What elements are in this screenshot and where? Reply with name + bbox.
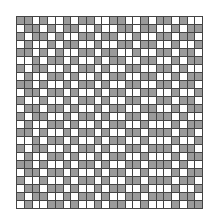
grid-cell <box>33 145 41 153</box>
grid-cell <box>25 161 33 169</box>
grid-cell <box>95 113 103 121</box>
grid-cell <box>79 129 87 137</box>
grid-cell <box>17 17 25 25</box>
grid-cell <box>64 177 72 185</box>
grid-cell <box>48 41 56 49</box>
grid-cell <box>17 33 25 41</box>
grid-cell <box>126 137 134 145</box>
grid-cell <box>17 57 25 65</box>
grid-cell <box>118 89 126 97</box>
grid-cell <box>79 97 87 105</box>
grid-cell <box>87 65 95 73</box>
grid-cell <box>102 89 110 97</box>
grid-cell <box>56 185 64 193</box>
grid-cell <box>71 89 79 97</box>
grid-cell <box>195 105 203 113</box>
grid-cell <box>71 169 79 177</box>
grid-cell <box>141 49 149 57</box>
grid-cell <box>110 137 118 145</box>
grid-cell <box>87 17 95 25</box>
grid-cell <box>40 49 48 57</box>
grid-cell <box>40 137 48 145</box>
grid-cell <box>87 177 95 185</box>
grid-cell <box>141 193 149 201</box>
grid-cell <box>188 129 196 137</box>
grid-cell <box>118 201 126 209</box>
grid-cell <box>71 145 79 153</box>
grid-cell <box>141 145 149 153</box>
grid-cell <box>110 57 118 65</box>
grid-cell <box>149 57 157 65</box>
grid-cell <box>164 97 172 105</box>
grid-cell <box>25 201 33 209</box>
grid-cell <box>188 25 196 33</box>
grid-cell <box>79 169 87 177</box>
grid-cell <box>25 73 33 81</box>
grid-cell <box>126 81 134 89</box>
grid-cell <box>48 153 56 161</box>
grid-cell <box>79 57 87 65</box>
grid-cell <box>126 65 134 73</box>
grid-cell <box>17 89 25 97</box>
grid-cell <box>172 49 180 57</box>
grid-cell <box>118 145 126 153</box>
grid-cell <box>17 65 25 73</box>
grid-cell <box>110 81 118 89</box>
grid-cell <box>110 121 118 129</box>
grid-cell <box>87 97 95 105</box>
grid-cell <box>40 177 48 185</box>
grid-cell <box>126 73 134 81</box>
grid-cell <box>71 33 79 41</box>
grid-cell <box>48 97 56 105</box>
grid-cell <box>110 161 118 169</box>
grid-cell <box>56 17 64 25</box>
grid-cell <box>102 33 110 41</box>
grid-cell <box>180 73 188 81</box>
grid-cell <box>56 33 64 41</box>
grid-cell <box>195 201 203 209</box>
grid-cell <box>95 105 103 113</box>
grid-cell <box>87 137 95 145</box>
grid-cell <box>71 57 79 65</box>
grid-cell <box>118 177 126 185</box>
grid-cell <box>71 185 79 193</box>
grid-cell <box>25 33 33 41</box>
grid-cell <box>40 145 48 153</box>
grid-cell <box>56 97 64 105</box>
grid-cell <box>141 25 149 33</box>
grid-cell <box>172 25 180 33</box>
grid-cell <box>164 89 172 97</box>
grid-cell <box>71 105 79 113</box>
grid-cell <box>172 169 180 177</box>
grid-cell <box>17 121 25 129</box>
grid-cell <box>79 145 87 153</box>
grid-cell <box>71 153 79 161</box>
grid-cell <box>164 57 172 65</box>
grid-cell <box>87 169 95 177</box>
grid-cell <box>195 25 203 33</box>
grid-cell <box>188 113 196 121</box>
grid-cell <box>195 33 203 41</box>
grid-cell <box>195 129 203 137</box>
grid-cell <box>149 129 157 137</box>
grid-cell <box>25 49 33 57</box>
grid-cell <box>172 161 180 169</box>
grid-cell <box>157 25 165 33</box>
grid-cell <box>56 25 64 33</box>
grid-cell <box>110 49 118 57</box>
grid-cell <box>164 41 172 49</box>
grid-cell <box>87 121 95 129</box>
grid-cell <box>149 73 157 81</box>
grid-cell <box>71 65 79 73</box>
grid-cell <box>188 145 196 153</box>
grid-cell <box>141 65 149 73</box>
grid-cell <box>149 201 157 209</box>
grid-cell <box>149 113 157 121</box>
grid-cell <box>180 201 188 209</box>
grid-cell <box>56 89 64 97</box>
grid-cell <box>48 169 56 177</box>
grid-cell <box>118 65 126 73</box>
grid-cell <box>172 201 180 209</box>
grid-cell <box>195 121 203 129</box>
grid-cell <box>133 145 141 153</box>
